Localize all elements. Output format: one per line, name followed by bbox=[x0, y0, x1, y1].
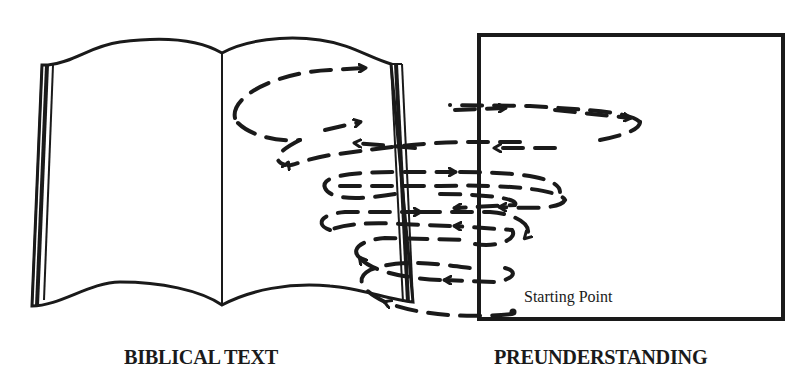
biblical-text-label: BIBLICAL TEXT bbox=[124, 344, 278, 370]
starting-point-dot-icon bbox=[510, 309, 517, 316]
preunderstanding-label: PREUNDERSTANDING bbox=[494, 344, 707, 370]
starting-point-label: Starting Point bbox=[524, 288, 612, 306]
hermeneutical-spiral-diagram: Starting Point BIBLICAL TEXT PREUNDERSTA… bbox=[0, 0, 812, 391]
